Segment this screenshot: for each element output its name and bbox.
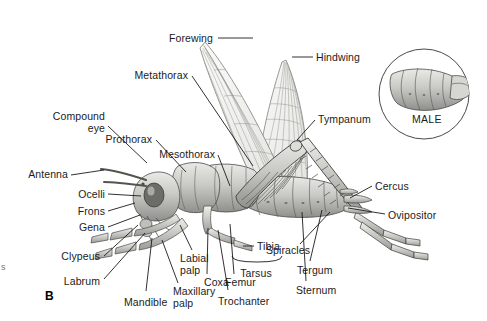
label-prothorax: Prothorax <box>106 134 152 146</box>
middle-leg <box>203 206 252 251</box>
label-tergum: Tergum <box>297 265 333 277</box>
label-ocelli: Ocelli <box>78 189 105 201</box>
page-edge-artifact: s <box>1 262 8 274</box>
label-forewing: Forewing <box>169 33 213 45</box>
compound-eye-shape <box>144 183 164 207</box>
label-trochanter: Trochanter <box>218 296 269 308</box>
leader-labial-palp <box>180 225 192 250</box>
label-labrum: Labrum <box>64 276 100 288</box>
label-spiracles: Spiracles <box>266 245 310 257</box>
label-clypeus: Clypeus <box>61 251 100 263</box>
cercus-shape <box>340 189 358 194</box>
label-maxillary-palp: Maxillary palp <box>173 286 215 309</box>
inset-caption: MALE <box>412 113 442 125</box>
leader-frons <box>108 203 135 211</box>
male-inset <box>379 49 472 139</box>
leader-maxillary-palp <box>162 240 178 283</box>
label-frons: Frons <box>78 206 105 218</box>
label-antenna: Antenna <box>28 169 68 181</box>
label-mesothorax: Mesothorax <box>159 149 215 161</box>
antenna-shape <box>101 169 146 180</box>
label-cercus: Cercus <box>375 181 409 193</box>
label-compound-eye: Compound eye <box>53 111 105 134</box>
leader-gena <box>108 215 140 227</box>
label-hindwing: Hindwing <box>316 52 360 64</box>
leader-antenna <box>71 170 104 175</box>
front-legs <box>91 214 188 259</box>
label-gena: Gena <box>79 222 105 234</box>
tarsus-brace <box>232 256 282 262</box>
label-sternum: Sternum <box>296 285 336 297</box>
panel-label: B <box>45 289 54 303</box>
leader-tergum <box>310 210 322 261</box>
label-ovipositor: Ovipositor <box>388 210 436 222</box>
label-mandible: Mandible <box>124 297 167 309</box>
leader-femur <box>230 224 234 274</box>
label-metathorax: Metathorax <box>134 70 188 82</box>
label-tympanum: Tympanum <box>318 114 371 126</box>
figure-panel-b: ForewingHindwingMetathoraxTympanumCompou… <box>0 0 487 321</box>
